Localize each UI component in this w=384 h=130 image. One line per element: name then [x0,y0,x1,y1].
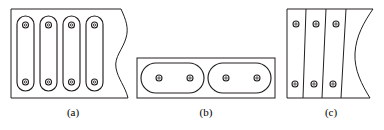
hole-4-bottom-core-a [93,81,95,83]
hole-2-bottom-core-a [47,81,49,83]
slot-group-2-a [40,16,57,91]
figure-b [134,54,278,104]
hole-3-top-core-a [70,24,72,26]
hole-1-right-core-b [189,77,191,79]
figure-c [284,6,382,104]
hole-strip-1-top-core-c [295,23,297,25]
hole-2-left-core-b [225,77,227,79]
hole-strip-3-bottom-core-c [332,83,334,85]
figure-c-drawing [284,6,382,104]
hole-strip-2-top-core-c [315,23,317,25]
slot-group-1-a [17,16,34,91]
figure-a-drawing [8,6,136,104]
hole-2-right-core-b [256,77,258,79]
slot-group-2-b [208,63,271,93]
hole-3-bottom-core-a [70,81,72,83]
figure-sheet: — — — — — — — — — — — — [0,0,384,130]
cut-off-text-remnant: — — — — — — — — — — — — [10,0,134,5]
figure-caption-a: (a) [28,106,118,119]
slot-group-1-b [141,63,204,93]
figure-caption-c: (c) [286,106,376,119]
slot-2-b [208,63,271,93]
figure-b-drawing [134,54,278,104]
hole-1-bottom-core-a [24,81,26,83]
hole-strip-2-bottom-core-c [313,83,315,85]
figure-caption-b: (b) [161,106,251,119]
hole-strip-3-top-core-c [335,23,337,25]
hole-4-top-core-a [93,24,95,26]
hole-1-left-core-b [158,77,160,79]
slot-1-b [141,63,204,93]
slot-group-3-a [63,16,80,91]
hole-1-top-core-a [24,24,26,26]
hole-strip-1-bottom-core-c [294,83,296,85]
figure-a [8,6,136,104]
slot-group-4-a [86,16,103,91]
cut-off-text-glyphs: — — — — — — — — — — — — [10,0,134,1]
hole-2-top-core-a [47,24,49,26]
